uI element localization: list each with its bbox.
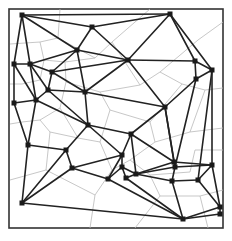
- site-point: [12, 62, 17, 67]
- site-point: [106, 177, 111, 182]
- voronoi-edge: [46, 170, 95, 195]
- voronoi-edge: [100, 85, 140, 92]
- voronoi-edge: [190, 128, 223, 132]
- site-point: [194, 77, 199, 82]
- site-point: [124, 176, 129, 181]
- site-point: [50, 70, 55, 75]
- site-point: [75, 48, 80, 53]
- delaunay-edge: [85, 92, 165, 107]
- delaunay-edges: [14, 14, 220, 219]
- site-point: [20, 201, 25, 206]
- delaunay-edge: [128, 14, 170, 60]
- site-point: [210, 68, 215, 73]
- site-point: [90, 25, 95, 30]
- delaunay-edge: [212, 165, 220, 207]
- delaunay-edge: [77, 27, 92, 50]
- voronoi-edge: [150, 172, 190, 175]
- voronoi-edge: [200, 190, 223, 196]
- delaunay-edge: [85, 60, 128, 92]
- site-point: [181, 217, 186, 222]
- voronoi-edge: [46, 132, 50, 170]
- site-point: [163, 105, 168, 110]
- site-point: [70, 166, 75, 171]
- voronoi-edge: [40, 38, 58, 42]
- delaunay-edge: [48, 90, 85, 92]
- delaunay-edge: [88, 125, 131, 134]
- site-point: [126, 58, 131, 63]
- voronoi-edge: [58, 9, 60, 38]
- voronoi-edge: [40, 42, 44, 60]
- voronoi-edge: [198, 22, 223, 40]
- voronoi-edge: [44, 60, 65, 62]
- voronoi-edge: [22, 120, 40, 122]
- voronoi-edge: [95, 170, 112, 195]
- delaunay-edge: [195, 61, 196, 79]
- voronoi-edge: [40, 120, 50, 132]
- site-point: [129, 132, 134, 137]
- voronoi-edge: [100, 142, 112, 170]
- delaunay-edge: [128, 60, 195, 61]
- site-point: [64, 148, 69, 153]
- delaunay-edge: [14, 100, 36, 103]
- delaunay-edge: [48, 90, 88, 125]
- delaunay-edge: [66, 125, 88, 150]
- delaunay-edge: [174, 162, 212, 165]
- delaunay-edge: [92, 27, 128, 60]
- site-point: [120, 153, 125, 158]
- site-point: [86, 123, 91, 128]
- delaunay-edge: [128, 60, 165, 107]
- voronoi-edge: [155, 132, 190, 142]
- site-point: [12, 101, 17, 106]
- voronoi-edge: [50, 132, 78, 138]
- delaunay-edge: [85, 92, 88, 125]
- site-point: [120, 165, 125, 170]
- delaunay-edge: [14, 103, 28, 145]
- delaunay-edge: [48, 72, 52, 90]
- voronoi-edge: [110, 110, 150, 122]
- delaunay-edge: [66, 150, 72, 168]
- site-point: [196, 178, 201, 183]
- voronoi-edge: [78, 138, 100, 142]
- site-point: [170, 179, 175, 184]
- voronoi-edge: [160, 72, 182, 84]
- delaunay-edge: [22, 15, 30, 64]
- voronoi-edge: [65, 58, 95, 62]
- delaunay-edge: [131, 134, 136, 174]
- voronoi-edge: [10, 170, 46, 180]
- site-point: [26, 143, 31, 148]
- delaunay-edge: [88, 125, 122, 155]
- site-point: [172, 160, 177, 165]
- site-point: [168, 12, 173, 17]
- site-point: [28, 62, 33, 67]
- delaunay-edge: [122, 134, 131, 155]
- site-point: [218, 205, 223, 210]
- site-point: [46, 88, 51, 93]
- delaunay-edge: [36, 100, 88, 125]
- site-point: [20, 13, 25, 18]
- delaunay-edge: [72, 168, 108, 179]
- delaunay-edge: [72, 155, 122, 168]
- site-point: [173, 165, 178, 170]
- site-point: [210, 163, 215, 168]
- voronoi-edge: [90, 195, 95, 228]
- site-point: [83, 90, 88, 95]
- delaunay-edge: [14, 15, 22, 64]
- delaunay-edge: [172, 180, 198, 181]
- delaunay-edge: [170, 14, 195, 61]
- delaunay-edge: [131, 107, 165, 134]
- delaunay-voronoi-diagram: [0, 0, 232, 241]
- delaunay-edge: [28, 100, 36, 145]
- voronoi-edge: [150, 122, 155, 142]
- site-point: [34, 98, 39, 103]
- delaunay-edge: [22, 145, 28, 203]
- site-point: [218, 212, 223, 217]
- delaunay-edge: [22, 14, 170, 15]
- delaunay-edge: [28, 145, 66, 150]
- site-point: [134, 172, 139, 177]
- delaunay-edge: [52, 72, 85, 92]
- site-point: [193, 59, 198, 64]
- voronoi-edge: [10, 42, 40, 44]
- voronoi-edge: [190, 150, 195, 172]
- voronoi-edge: [40, 60, 44, 80]
- voronoi-edge: [205, 88, 223, 90]
